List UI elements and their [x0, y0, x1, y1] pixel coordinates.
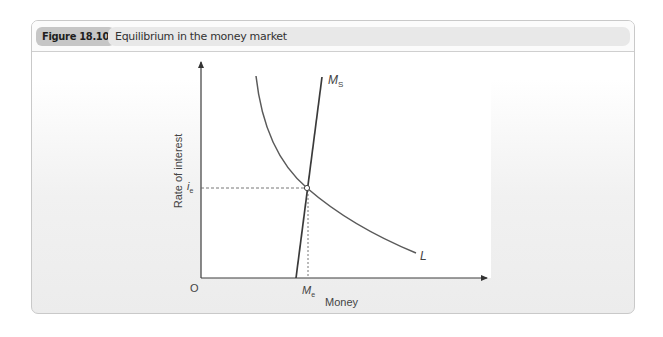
- origin-label: O: [190, 282, 199, 294]
- equilibrium-point: [304, 185, 309, 190]
- x-axis-label: Money: [325, 296, 359, 308]
- plot-area: [201, 62, 491, 278]
- l-label: L: [420, 249, 427, 263]
- me-label: Me: [302, 284, 315, 298]
- ie-label: ie: [187, 180, 193, 194]
- y-axis-label: Rate of interest: [172, 134, 184, 209]
- money-market-chart: MS L ie Me O Money Rate of interest: [0, 0, 663, 337]
